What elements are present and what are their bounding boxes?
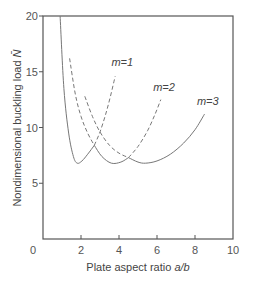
y-axis-title: Nondimensional buckling load N̄ [11,49,23,206]
axis-ticks: 2468105101520 [26,10,239,256]
x-tick-label: 10 [227,244,239,256]
curve-m3-dashed_left [85,96,129,157]
curve-label-m2: m=2 [153,81,175,93]
curve-m1-solid [60,16,94,163]
y-tick-label: 10 [26,122,38,134]
curve-label-m3: m=3 [197,95,220,107]
y-tick-label: 15 [26,66,38,78]
y-tick-label: 20 [26,10,38,22]
x-tick-label: 4 [116,244,122,256]
buckling-load-chart: 2468105101520 m=1m=2m=3 0 Plate aspect r… [0,0,254,282]
curve-m2-dashed_left [70,58,95,145]
curve-m3-solid [129,114,205,163]
plot-frame [43,16,233,239]
x-axis-title: Plate aspect ratio a/b [86,261,189,273]
y-tick-label: 5 [32,177,38,189]
curves [60,16,204,164]
curve-m2-solid [94,145,128,163]
curve-m2-dashed_right [129,100,161,158]
curve-m1-dashed [94,76,115,145]
x-tick-label: 2 [78,244,84,256]
axes-box [43,16,233,239]
x-tick-label: 6 [154,244,160,256]
curve-label-m1: m=1 [111,56,133,68]
x-tick-label: 8 [192,244,198,256]
origin-label: 0 [30,244,36,256]
curve-labels: m=1m=2m=3 [111,56,219,107]
